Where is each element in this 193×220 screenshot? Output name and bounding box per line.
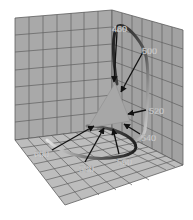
label-500: 500 [142,46,157,56]
label-540: 540 [141,133,156,143]
label-560: 560 [117,157,132,167]
label-600: 600 [34,149,49,159]
label-520: 520 [149,106,164,116]
3d-color-space-diagram: 460 500 520 540 560 580 600 [0,0,193,220]
label-460: 460 [112,24,127,34]
label-580: 580 [79,164,94,174]
